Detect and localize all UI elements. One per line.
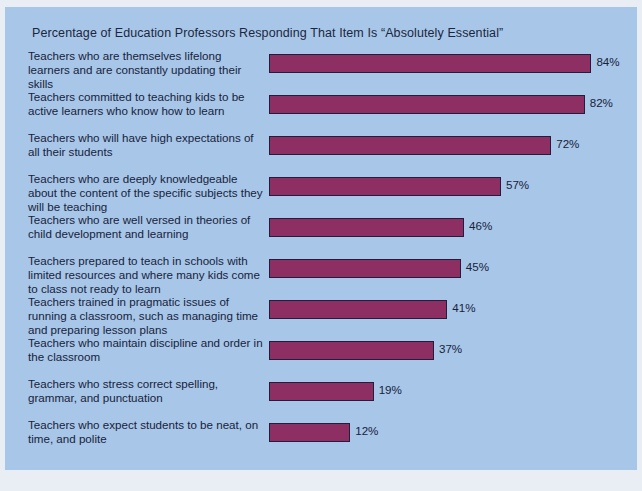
bar-fill xyxy=(269,259,461,278)
bar-category-label: Teachers who expect students to be neat,… xyxy=(28,418,265,446)
bar-fill xyxy=(269,300,447,319)
bar-row: Teachers who are deeply knowledgeable ab… xyxy=(5,174,637,215)
bar-category-label: Teachers committed to teaching kids to b… xyxy=(28,90,265,118)
bar-value-label: 41% xyxy=(452,301,475,314)
bar-row: Teachers who are well versed in theories… xyxy=(5,215,637,256)
bar-track xyxy=(269,136,551,155)
bar-fill xyxy=(269,382,374,401)
bar-row: Teachers prepared to teach in schools wi… xyxy=(5,256,637,297)
bar-track xyxy=(269,95,585,114)
bar-fill xyxy=(269,136,551,155)
bar-row: Teachers who expect students to be neat,… xyxy=(5,420,637,461)
bar-category-label: Teachers who are themselves lifelong lea… xyxy=(28,49,265,92)
bar-track xyxy=(269,341,434,360)
bar-value-label: 19% xyxy=(379,383,402,396)
bar-fill xyxy=(269,54,591,73)
bar-track xyxy=(269,300,447,319)
bar-track xyxy=(269,54,591,73)
bar-row: Teachers who are themselves lifelong lea… xyxy=(5,51,637,92)
bar-track xyxy=(269,382,374,401)
bar-fill xyxy=(269,177,501,196)
bar-value-label: 12% xyxy=(355,424,378,437)
bar-value-label: 84% xyxy=(596,55,619,68)
bar-row: Teachers who maintain discipline and ord… xyxy=(5,338,637,379)
chart-title: Percentage of Education Professors Respo… xyxy=(32,26,503,40)
bar-fill xyxy=(269,423,350,442)
bar-track xyxy=(269,218,464,237)
bar-track xyxy=(269,423,350,442)
bar-value-label: 72% xyxy=(556,137,579,150)
bar-chart-rows: Teachers who are themselves lifelong lea… xyxy=(5,51,637,461)
bar-category-label: Teachers trained in pragmatic issues of … xyxy=(28,295,265,338)
bar-category-label: Teachers prepared to teach in schools wi… xyxy=(28,254,265,297)
bar-row: Teachers who will have high expectations… xyxy=(5,133,637,174)
bar-fill xyxy=(269,341,434,360)
bar-value-label: 46% xyxy=(469,219,492,232)
bar-value-label: 82% xyxy=(590,96,613,109)
bar-value-label: 37% xyxy=(439,342,462,355)
bar-track xyxy=(269,177,501,196)
bar-value-label: 45% xyxy=(466,260,489,273)
bar-fill xyxy=(269,218,464,237)
bar-track xyxy=(269,259,461,278)
bar-fill xyxy=(269,95,585,114)
bar-category-label: Teachers who will have high expectations… xyxy=(28,131,265,159)
bar-category-label: Teachers who are deeply knowledgeable ab… xyxy=(28,172,265,215)
bar-value-label: 57% xyxy=(506,178,529,191)
bar-category-label: Teachers who are well versed in theories… xyxy=(28,213,265,241)
bar-category-label: Teachers who maintain discipline and ord… xyxy=(28,336,265,364)
bar-category-label: Teachers who stress correct spelling, gr… xyxy=(28,377,265,405)
bar-row: Teachers who stress correct spelling, gr… xyxy=(5,379,637,420)
bar-row: Teachers trained in pragmatic issues of … xyxy=(5,297,637,338)
bar-row: Teachers committed to teaching kids to b… xyxy=(5,92,637,133)
chart-panel: Percentage of Education Professors Respo… xyxy=(5,7,637,470)
